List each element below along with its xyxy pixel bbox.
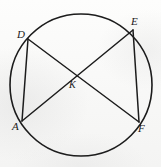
vertex-label-a: A [12, 121, 19, 132]
circle-outline [10, 14, 152, 156]
chord-d-a [22, 39, 28, 121]
vertex-label-d: D [17, 29, 25, 40]
chord-a-e [22, 30, 133, 121]
geometry-figure: D E A F K [0, 0, 161, 167]
chord-d-f [28, 39, 139, 122]
vertex-label-f: F [138, 123, 145, 134]
intersection-label-k: K [69, 80, 76, 90]
vertex-label-e: E [131, 16, 138, 27]
